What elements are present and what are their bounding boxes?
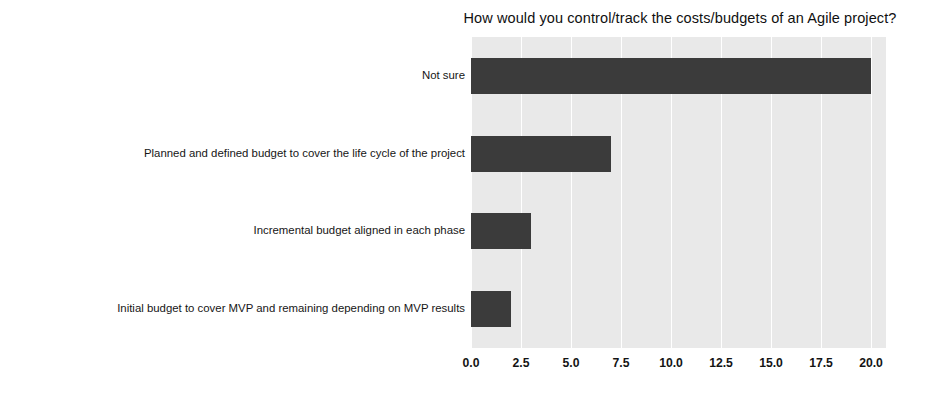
x-axis-labels: 0.02.55.07.510.012.515.017.520.0 [0,0,939,395]
x-axis-tick-label: 20.0 [841,356,901,370]
bar-chart-figure: How would you control/track the costs/bu… [0,0,939,395]
